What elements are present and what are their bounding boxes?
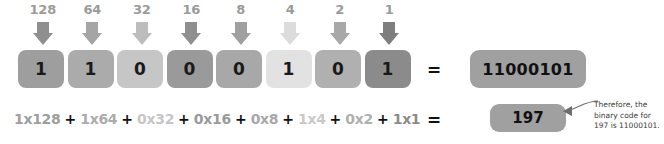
down-arrow-icon	[315, 20, 365, 46]
plus-sign: +	[231, 111, 251, 127]
place-value-label: 8	[216, 2, 266, 18]
down-arrow-icon	[117, 20, 167, 46]
bit-box: 0	[315, 50, 361, 88]
down-arrow-icon	[18, 20, 68, 46]
bit-box: 1	[18, 50, 64, 88]
plus-sign: +	[373, 111, 393, 127]
plus-sign: +	[61, 111, 81, 127]
arrow-head	[379, 33, 399, 45]
place-value-label: 4	[266, 2, 316, 18]
bit-box-row: 1 1 0 0 0 1 0 1	[18, 50, 414, 90]
place-value-label: 2	[315, 2, 365, 18]
bit-box: 1	[365, 50, 411, 88]
decimal-result-pill: 197	[490, 104, 566, 132]
down-arrow-icon	[365, 20, 415, 46]
equation-term: 0x32	[137, 111, 174, 127]
place-value-label: 64	[68, 2, 118, 18]
equation-term: 1x1	[393, 111, 421, 127]
equals-sign-top: =	[423, 60, 445, 80]
equation-term: 1x64	[80, 111, 117, 127]
bit-box: 0	[167, 50, 213, 88]
plus-sign: +	[326, 111, 346, 127]
plus-sign: +	[117, 111, 137, 127]
arrow-head	[181, 33, 201, 45]
place-value-label: 128	[18, 2, 68, 18]
place-value-label-row: 128 64 32 16 8 4 2 1	[18, 2, 414, 20]
arrow-head	[231, 33, 251, 45]
equals-sign-bottom: =	[423, 110, 445, 130]
arrow-head	[280, 33, 300, 45]
equation-term: 1x4	[298, 111, 326, 127]
down-arrow-icon	[266, 20, 316, 46]
equation-term: 1x128	[14, 111, 61, 127]
arrow-head	[33, 33, 53, 45]
place-value-label: 1	[365, 2, 415, 18]
plus-sign: +	[278, 111, 298, 127]
arrow-head	[330, 33, 350, 45]
plus-sign: +	[174, 111, 194, 127]
down-arrow-icon	[167, 20, 217, 46]
binary-result-pill: 11000101	[470, 50, 586, 88]
expansion-equation-row: 1x128 + 1x64 + 0x32 + 0x16 + 0x8 + 1x4 +…	[14, 106, 418, 132]
arrow-head	[132, 33, 152, 45]
bit-box: 1	[266, 50, 312, 88]
bit-box: 0	[117, 50, 163, 88]
equation-term: 0x2	[345, 111, 373, 127]
down-arrow-icon	[216, 20, 266, 46]
bit-box: 0	[216, 50, 262, 88]
annotation-text: Therefore, the binary code for 197 is 11…	[594, 100, 664, 132]
bit-box: 1	[68, 50, 114, 88]
equation-term: 0x16	[194, 111, 231, 127]
place-value-label: 16	[167, 2, 217, 18]
binary-conversion-diagram: 128 64 32 16 8 4 2 1	[0, 0, 664, 144]
down-arrow-icon	[68, 20, 118, 46]
down-arrow-row	[18, 20, 414, 48]
equation-term: 0x8	[251, 111, 279, 127]
arrow-head	[82, 33, 102, 45]
place-value-label: 32	[117, 2, 167, 18]
